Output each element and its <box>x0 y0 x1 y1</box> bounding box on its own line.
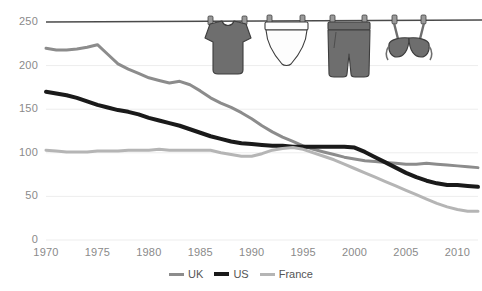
legend-item-uk[interactable]: UK <box>169 268 203 280</box>
legend-item-us[interactable]: US <box>214 268 248 280</box>
series-line-uk <box>46 45 478 168</box>
x-axis-tick-label: 1995 <box>279 246 327 258</box>
legend-swatch-icon <box>214 272 229 276</box>
series-lines <box>46 45 478 212</box>
y-axis-tick-label: 50 <box>2 189 38 201</box>
series-line-france <box>46 148 478 212</box>
x-axis-tick-label: 1975 <box>73 246 121 258</box>
y-axis-tick-label: 200 <box>2 59 38 71</box>
legend-label: US <box>233 268 248 280</box>
y-axis-tick-label: 150 <box>2 102 38 114</box>
y-axis-tick-label: 100 <box>2 146 38 158</box>
legend-label: UK <box>188 268 203 280</box>
y-axis-tick-label: 0 <box>2 233 38 245</box>
chart-legend: UKUSFrance <box>0 268 482 280</box>
pants-icon <box>328 15 370 77</box>
y-axis-tick-label: 250 <box>2 15 38 27</box>
legend-item-france[interactable]: France <box>260 268 313 280</box>
x-axis-tick-label: 1990 <box>228 246 276 258</box>
legend-swatch-icon <box>169 273 184 276</box>
line-chart: 250200150100500 197019751980198519901995… <box>0 0 482 291</box>
x-axis-tick-label: 2000 <box>331 246 379 258</box>
x-axis-tick-label: 2010 <box>433 246 481 258</box>
clothes-line <box>46 20 482 22</box>
x-axis-tick-label: 2005 <box>382 246 430 258</box>
legend-label: France <box>279 268 313 280</box>
bra-icon <box>386 15 432 60</box>
x-axis-tick-label: 1970 <box>22 246 70 258</box>
series-line-us <box>46 92 478 187</box>
clothesline-illustration <box>46 15 482 77</box>
underwear-icon <box>265 15 308 66</box>
x-axis-tick-label: 1985 <box>176 246 224 258</box>
legend-swatch-icon <box>260 273 275 276</box>
x-axis-tick-label: 1980 <box>125 246 173 258</box>
